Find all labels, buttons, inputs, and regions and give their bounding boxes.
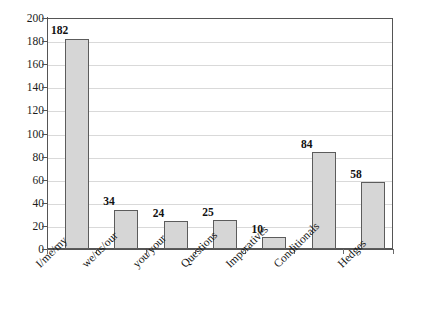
y-tick-label: 120 (4, 105, 44, 117)
y-tick-label: 160 (4, 59, 44, 71)
y-tick-label: 0 (4, 244, 44, 256)
y-tick-label: 60 (4, 175, 44, 187)
y-tick-label: 20 (4, 221, 44, 233)
y-tick-label: 180 (4, 36, 44, 48)
bar-hedges[interactable] (361, 182, 385, 249)
bar-chart: 200 180 160 140 120 100 80 60 40 20 0 (0, 0, 427, 325)
y-tick-label: 200 (4, 13, 44, 25)
x-tick-mark (393, 249, 394, 254)
bar-value-label: 24 (144, 208, 174, 220)
y-tick-label: 40 (4, 198, 44, 210)
y-tick-label: 140 (4, 82, 44, 94)
bar-value-label: 25 (193, 207, 223, 219)
bar-value-label: 34 (94, 196, 124, 208)
bar-i-me-my[interactable] (65, 39, 89, 249)
y-tick-label: 80 (4, 152, 44, 164)
bar-we-us-our[interactable] (114, 210, 138, 249)
bar-value-label: 58 (341, 169, 371, 181)
bar-value-label: 182 (45, 25, 75, 37)
bar-value-label: 84 (292, 139, 322, 151)
y-tick-label: 100 (4, 129, 44, 141)
y-axis: 200 180 160 140 120 100 80 60 40 20 0 (0, 0, 44, 325)
bar-imperatives[interactable] (262, 237, 286, 249)
bar-you-your[interactable] (164, 221, 188, 249)
